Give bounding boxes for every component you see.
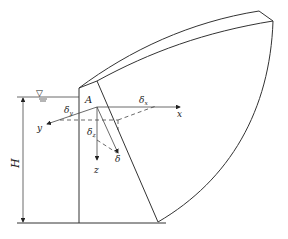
water-level-symbol: ▽ (36, 88, 43, 98)
downstream-arc (158, 21, 273, 222)
delta-vector (97, 107, 118, 153)
projection-z (97, 140, 117, 153)
delta-y-label: δy (64, 105, 73, 117)
crest-outer-arc (79, 11, 273, 88)
height-label: H (9, 158, 22, 169)
z-axis-label: z (93, 165, 99, 175)
delta-label: δ (115, 154, 120, 164)
x-axis-label: x (177, 109, 182, 119)
dam-diagram: ▽ H A x y z δx δy δz δ (0, 0, 288, 239)
delta-x-label: δx (139, 95, 148, 106)
y-axis-label: y (36, 123, 43, 133)
delta-z-label: δz (87, 127, 96, 138)
dam-body (17, 11, 273, 223)
downstream-face (97, 81, 158, 222)
coordinate-axes: x y z (36, 107, 182, 175)
point-a-label: A (84, 94, 92, 105)
water-level: ▽ (17, 88, 79, 101)
height-dimension: H (9, 98, 23, 222)
projection-x (118, 106, 156, 120)
